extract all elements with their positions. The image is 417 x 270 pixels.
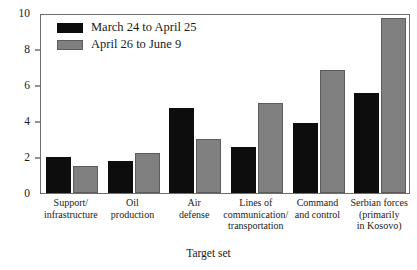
bar: [354, 93, 379, 193]
x-axis-label-line: transportation: [219, 220, 293, 232]
bar: [196, 139, 221, 193]
gray-swatch-icon: [57, 40, 83, 50]
y-axis-tick-label: 10: [19, 8, 31, 20]
chart-legend: March 24 to April 25 April 26 to June 9: [57, 20, 197, 54]
x-axis-label-line: in Kosovo): [342, 220, 416, 232]
legend-item-label: March 24 to April 25: [91, 21, 197, 34]
y-axis-tick-label: 0: [24, 188, 30, 200]
x-axis-label-line: Serbian forces: [342, 197, 416, 209]
x-axis-title: Target set: [0, 248, 417, 260]
y-axis-tick-label: 6: [24, 80, 30, 92]
bar: [381, 18, 406, 193]
y-axis: 0246810: [0, 0, 40, 270]
bar: [320, 70, 345, 193]
bar: [293, 123, 318, 193]
black-swatch-icon: [57, 23, 83, 33]
bar: [169, 108, 194, 194]
bar: [231, 147, 256, 193]
legend-item-label: April 26 to June 9: [91, 38, 181, 51]
legend-item: April 26 to June 9: [57, 37, 197, 52]
bar: [108, 161, 133, 193]
bar: [135, 153, 160, 194]
x-axis-category-label: Serbian forces(primarilyin Kosovo): [342, 197, 416, 232]
bar: [46, 157, 71, 193]
bar-chart-figure: 0246810 March 24 to April 25 April 26 to…: [0, 0, 417, 270]
y-axis-tick-label: 8: [24, 44, 30, 56]
legend-item: March 24 to April 25: [57, 20, 197, 35]
y-axis-tick-label: 2: [24, 152, 30, 164]
x-axis-labels: Support/infrastructureOilproductionAirde…: [40, 197, 410, 245]
bar: [73, 166, 98, 193]
x-axis-label-line: (primarily: [342, 209, 416, 221]
bar: [258, 103, 283, 193]
y-axis-tick-label: 4: [24, 116, 30, 128]
